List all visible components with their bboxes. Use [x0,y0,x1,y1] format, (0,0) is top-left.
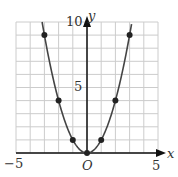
x-max-label: 5 [152,158,160,173]
x-axis-label: x [167,146,175,161]
data-point [41,32,47,38]
y-max-label: 10 [66,14,83,29]
data-point [56,98,62,104]
data-point [127,32,133,38]
data-point [84,150,90,156]
parabola-graph: −5 5 5 10 O x y [0,0,178,177]
origin-label: O [82,158,93,173]
x-axis-arrow-icon [156,149,166,157]
data-point [112,98,118,104]
x-min-label: −5 [4,156,23,171]
data-point [70,137,76,143]
y-mid-label: 5 [74,79,82,94]
data-point [98,137,104,143]
y-axis-label: y [87,8,96,23]
